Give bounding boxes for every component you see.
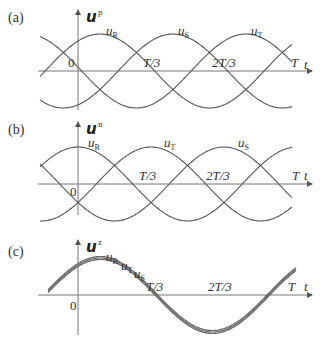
panel-b: (b) u n uR uT uS 0 T/3 2T/3 T t [8,119,312,221]
panel-a: (a) u p uR uS uT 0 T/3 2T/3 T t [8,7,312,110]
tick-T3: T/3 [139,168,157,183]
axis-symbol-a: u [86,8,97,26]
sequence-components-diagram: (a) u p uR uS uT 0 T/3 2T/3 T t (b) u n … [0,0,326,348]
curve-label-uS: uS [238,135,249,152]
waveform-ur [48,257,296,331]
curve-label-uT: uT [121,258,133,275]
tick-T: T [291,55,299,70]
curve-label-uR: uR [106,249,119,266]
tick-2T3: 2T/3 [206,168,230,183]
tick-2T3: 2T/3 [208,279,232,294]
panel-a-label: (a) [8,10,24,26]
axis-superscript-a: p [98,7,103,17]
x-axis-label: t [304,57,308,72]
panel-c: (c) u z uR uT uS 0 T/3 2T/3 T t [8,237,312,335]
waveform-us [48,260,296,334]
panel-c-label: (c) [8,244,24,260]
tick-0: 0 [70,184,77,199]
curve-label-uT: uT [251,23,263,40]
curve-label-uR: uR [106,23,119,40]
tick-2T3: 2T/3 [212,55,236,70]
tick-T3: T/3 [143,55,161,70]
tick-0: 0 [68,55,75,70]
curve-label-uT: uT [164,135,176,152]
tick-T: T [292,168,300,183]
tick-0: 0 [70,298,77,313]
axis-symbol-c: u [86,238,97,256]
curve-label-uS: uS [178,23,189,40]
x-axis-label: t [304,168,308,183]
axis-superscript-c: z [98,237,102,247]
x-axis-label: t [304,279,308,294]
curve-label-uS: uS [134,266,145,283]
tick-T: T [288,279,296,294]
panel-b-label: (b) [8,122,25,138]
curve-label-uR: uR [88,135,101,152]
axis-superscript-b: n [98,119,103,129]
tick-T3: T/3 [146,279,164,294]
